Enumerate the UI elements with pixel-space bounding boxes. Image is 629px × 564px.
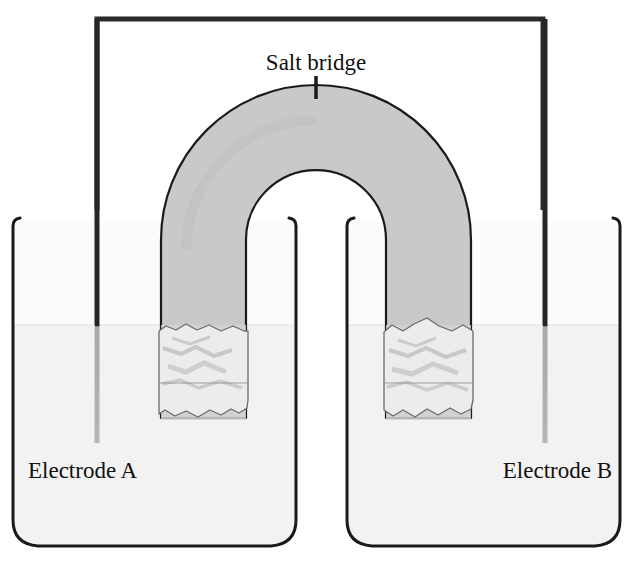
- salt-bridge-left-plug: [159, 324, 248, 417]
- salt-bridge-right-plug: [384, 318, 473, 417]
- electrode-a-rod: [95, 19, 100, 443]
- beaker-left: [13, 222, 296, 546]
- salt-bridge-label: Salt bridge: [266, 50, 366, 75]
- electrode-b-label: Electrode B: [503, 458, 612, 483]
- electrochemical-cell-diagram: Salt bridge Electrode A Electrode B: [0, 0, 629, 564]
- beaker-left-solution: [13, 325, 296, 546]
- electrode-a-body: [95, 19, 100, 443]
- electrode-a-label: Electrode A: [28, 458, 138, 483]
- electrode-b-rod: [543, 19, 548, 443]
- cell-diagram-canvas: Salt bridge Electrode A Electrode B: [0, 0, 629, 564]
- electrode-b-body: [543, 19, 548, 443]
